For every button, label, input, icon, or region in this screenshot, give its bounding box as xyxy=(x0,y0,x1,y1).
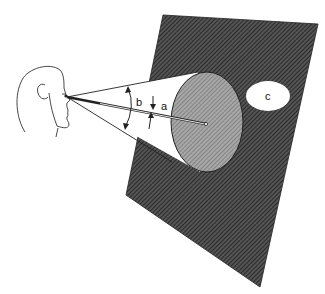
disc xyxy=(171,72,243,172)
label-c: c xyxy=(265,90,271,102)
label-a: a xyxy=(161,100,168,112)
observer-eye xyxy=(64,94,67,97)
observer-head xyxy=(17,66,70,137)
label-b: b xyxy=(136,96,142,108)
diagram: c b a xyxy=(0,0,325,294)
disc-center-point xyxy=(204,122,207,125)
